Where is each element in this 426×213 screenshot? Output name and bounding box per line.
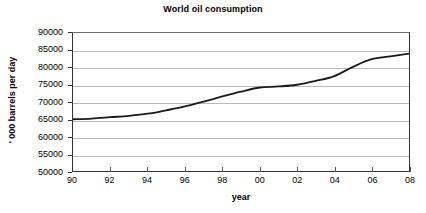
x-axis-tick-mark (335, 167, 336, 172)
x-axis-tick-label: 94 (135, 176, 159, 185)
x-axis-tick-mark (147, 167, 148, 172)
chart-container: World oil consumption ' 000 barrels per … (0, 0, 426, 213)
x-axis-tick-mark (260, 167, 261, 172)
x-axis-tick-mark (372, 167, 373, 172)
x-axis-tick-label: 90 (60, 176, 84, 185)
x-axis-tick-label: 06 (360, 176, 384, 185)
x-axis-tick-label: 08 (398, 176, 422, 185)
x-axis-tick-label: 98 (210, 176, 234, 185)
x-axis-tick-mark (222, 167, 223, 172)
x-axis-tick-label: 02 (285, 176, 309, 185)
x-axis-tick-mark (297, 167, 298, 172)
x-axis-tick-mark (185, 167, 186, 172)
x-axis-tick-label: 04 (323, 176, 347, 185)
x-axis-tick-label: 00 (248, 176, 272, 185)
x-axis-title: year (72, 192, 410, 202)
x-axis-tick-label: 96 (173, 176, 197, 185)
x-axis-tick-mark (110, 167, 111, 172)
x-axis-ticks: 90929496980002040608 (0, 0, 426, 213)
x-axis-tick-mark (410, 167, 411, 172)
x-axis-tick-label: 92 (98, 176, 122, 185)
